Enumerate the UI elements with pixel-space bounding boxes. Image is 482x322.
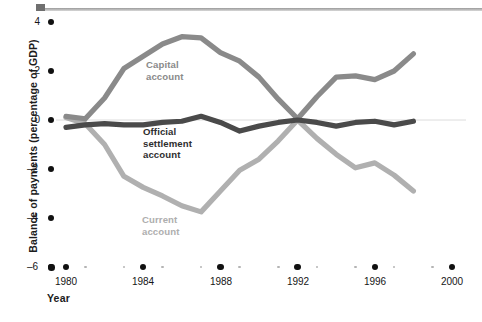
plot-area — [0, 0, 482, 322]
series-line-official-settlement-account — [66, 116, 413, 131]
series-line-capital-account — [66, 37, 413, 119]
chart-figure: Balance of payments (percentage of GDP) … — [0, 0, 482, 322]
